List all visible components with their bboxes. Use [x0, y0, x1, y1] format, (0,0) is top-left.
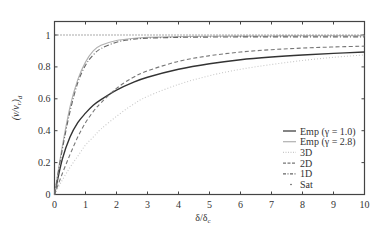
curve-emp-2-8- [55, 36, 365, 195]
curve-2d [55, 46, 365, 194]
svg-text:(ν/νr)d: (ν/νr)d [10, 95, 24, 120]
y-tick-label: 0.2 [38, 157, 51, 168]
x-tick-label: 4 [176, 199, 181, 210]
y-tick-label: 0.8 [38, 61, 51, 72]
legend-label: 1D [300, 168, 312, 179]
legend-swatch [290, 184, 292, 186]
x-axis-label: δ/δc [195, 212, 210, 225]
line-chart: 012345678910 00.20.40.60.81 δ/δc (ν/νr)d… [0, 0, 385, 238]
legend-label: 2D [300, 158, 312, 169]
y-tick-label: 0.4 [38, 125, 51, 136]
y-axis-label: (ν/νr)d [10, 95, 24, 120]
legend-label: Sat [300, 179, 313, 190]
x-tick-label: 10 [360, 199, 370, 210]
legend-label: 3D [300, 147, 312, 158]
y-tick-label: 0 [46, 189, 51, 200]
x-tick-label: 9 [331, 199, 336, 210]
legend: Emp (γ = 1.0)Emp (γ = 2.8)3D2D1DSat [283, 126, 356, 191]
x-tick-label: 1 [83, 199, 88, 210]
x-tick-label: 5 [207, 199, 212, 210]
curves [55, 35, 365, 195]
y-tick-label: 0.6 [38, 93, 51, 104]
x-tick-label: 7 [269, 199, 274, 210]
x-tick-label: 8 [300, 199, 305, 210]
y-tick-label: 1 [46, 30, 51, 41]
curve-emp-1-0- [55, 52, 365, 194]
x-tick-label: 2 [114, 199, 119, 210]
x-tick-label: 0 [52, 199, 57, 210]
x-tick-label: 6 [238, 199, 243, 210]
svg-text:δ/δc: δ/δc [195, 212, 210, 225]
y-axis-ticks: 00.20.40.60.81 [38, 30, 365, 201]
x-tick-label: 3 [145, 199, 150, 210]
curve-1d [55, 37, 365, 195]
